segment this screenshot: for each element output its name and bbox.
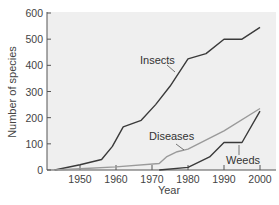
x-tick-label: 1950	[68, 173, 92, 185]
y-tick-label: 100	[25, 138, 43, 150]
plot-background	[47, 12, 276, 170]
series-label-weeds: Weeds	[226, 154, 261, 166]
x-tick-label: 2000	[248, 173, 272, 185]
series-label-insects: Insects	[140, 54, 175, 66]
y-tick-label: 200	[25, 112, 43, 124]
y-tick-label: 400	[25, 59, 43, 71]
x-axis-title: Year	[158, 184, 181, 196]
y-tick-label: 0	[37, 164, 43, 176]
x-tick-label: 1990	[212, 173, 236, 185]
y-tick-label: 600	[25, 7, 43, 19]
line-chart: 0100200300400500600 19501960197019801990…	[0, 0, 279, 205]
y-axis-title: Number of species	[6, 46, 18, 138]
series-label-diseases: Diseases	[149, 130, 195, 142]
x-tick-label: 1960	[104, 173, 128, 185]
y-axis: 0100200300400500600	[25, 7, 51, 176]
y-tick-label: 300	[25, 86, 43, 98]
y-tick-label: 500	[25, 33, 43, 45]
